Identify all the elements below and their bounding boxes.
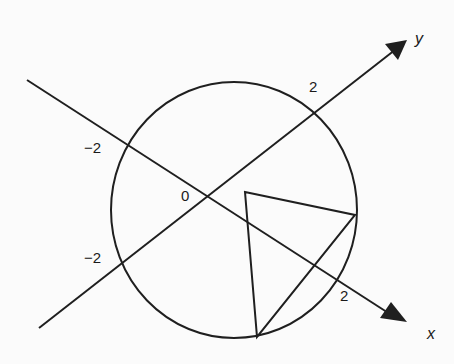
diagram-svg [0,0,454,364]
circle [111,82,357,338]
x-axis-line [27,80,393,316]
inscribed-triangle [245,192,355,337]
y-axis-pos-label: 2 [309,79,317,94]
diagram-canvas: −2 2 0 −2 2 y x [0,0,454,364]
x-axis-name-label: x [427,326,435,342]
y-axis-neg-label-upper: −2 [84,140,101,155]
y-axis-neg-label-lower: −2 [84,250,101,265]
y-axis-arrow-icon [385,40,407,60]
x-axis-arrow-icon [380,302,407,322]
x-axis-pos-label: 2 [340,288,348,303]
origin-label: 0 [181,188,189,203]
y-axis-name-label: y [415,31,423,47]
